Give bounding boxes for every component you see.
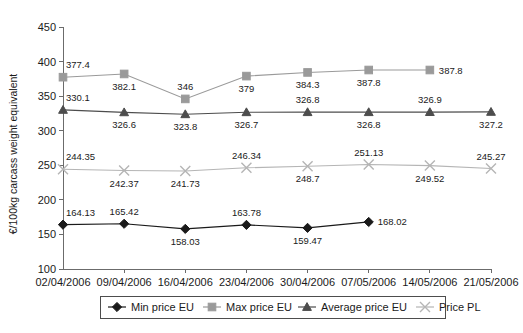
series-min-price-eu: 164.13165.42158.03163.78159.47168.02 xyxy=(58,206,406,247)
series-average-price-eu: 330.1326.6323.8326.7326.8326.8326.9327.2 xyxy=(59,92,503,132)
y-axis-tick-label: 200 xyxy=(38,194,56,206)
data-point-label: 327.2 xyxy=(479,119,503,130)
series-price-pl: 244.35242.37241.73246.34248.7251.13249.5… xyxy=(58,147,506,189)
x-axis-tick-label: 09/04/2006 xyxy=(97,276,152,288)
data-point-diamond-marker xyxy=(120,219,129,228)
x-axis-tick-label: 07/05/2006 xyxy=(341,276,396,288)
data-point-label: 158.03 xyxy=(171,236,200,247)
data-point-diamond-marker xyxy=(364,217,373,226)
legend-label: Max price EU xyxy=(226,301,292,313)
data-point-label: 377.4 xyxy=(66,59,90,70)
price-line-chart: 10015020025030035040045002/04/200609/04/… xyxy=(0,0,523,333)
data-point-label: 241.73 xyxy=(171,178,200,189)
data-point-square-marker xyxy=(304,69,312,77)
data-point-label: 248.7 xyxy=(296,173,320,184)
data-point-square-marker xyxy=(59,73,67,81)
data-point-label: 387.8 xyxy=(439,65,463,76)
data-point-square-marker xyxy=(181,95,189,103)
data-point-label: 165.42 xyxy=(110,206,139,217)
y-axis-tick-label: 450 xyxy=(38,21,56,33)
data-point-label: 168.02 xyxy=(378,216,407,227)
x-axis-tick-label: 14/05/2006 xyxy=(402,276,457,288)
legend-label: Price PL xyxy=(439,301,481,313)
data-point-diamond-marker xyxy=(303,223,312,232)
data-point-label: 382.1 xyxy=(112,81,136,92)
legend-square-marker xyxy=(208,303,216,311)
data-point-square-marker xyxy=(426,66,434,74)
data-point-square-marker xyxy=(243,72,251,80)
data-point-label: 164.13 xyxy=(66,207,95,218)
data-point-label: 326.6 xyxy=(112,119,136,130)
x-axis-tick-label: 16/04/2006 xyxy=(158,276,213,288)
data-point-label: 384.3 xyxy=(296,79,320,90)
data-point-diamond-marker xyxy=(58,220,67,229)
x-axis-tick-label: 21/05/2006 xyxy=(463,276,518,288)
data-point-label: 251.13 xyxy=(354,147,383,158)
data-point-label: 379 xyxy=(238,83,254,94)
chart-axes: 10015020025030035040045002/04/200609/04/… xyxy=(35,21,518,288)
data-point-label: 326.9 xyxy=(418,94,442,105)
chart-legend: Min price EUMax price EUAverage price EU… xyxy=(100,296,481,318)
data-point-diamond-marker xyxy=(242,220,251,229)
data-point-label: 242.37 xyxy=(110,178,139,189)
series-max-price-eu: 377.4382.1346379384.3387.8387.8 xyxy=(59,59,462,103)
data-point-diamond-marker xyxy=(181,224,190,233)
data-point-label: 330.1 xyxy=(66,92,90,103)
y-axis-tick-label: 300 xyxy=(38,125,56,137)
data-point-label: 163.78 xyxy=(232,207,261,218)
x-axis-tick-label: 30/04/2006 xyxy=(280,276,335,288)
data-point-label: 387.8 xyxy=(357,77,381,88)
y-axis-tick-label: 250 xyxy=(38,159,56,171)
chart-canvas: 10015020025030035040045002/04/200609/04/… xyxy=(0,0,523,333)
data-point-triangle-marker xyxy=(59,106,68,114)
data-point-label: 249.52 xyxy=(415,173,444,184)
data-point-label: 246.34 xyxy=(232,150,261,161)
data-point-label: 244.35 xyxy=(66,151,95,162)
axis-lines xyxy=(63,27,491,269)
data-point-label: 159.47 xyxy=(293,235,322,246)
legend-label: Average price EU xyxy=(321,301,407,313)
data-point-label: 326.8 xyxy=(357,119,381,130)
data-point-label: 346 xyxy=(177,81,193,92)
legend-label: Min price EU xyxy=(131,301,194,313)
x-axis-tick-label: 23/04/2006 xyxy=(219,276,274,288)
data-point-square-marker xyxy=(365,66,373,74)
data-point-label: 326.7 xyxy=(235,119,259,130)
y-axis-title: €/100kg carcass weight equivalent xyxy=(7,74,19,235)
y-axis-tick-label: 150 xyxy=(38,228,56,240)
data-point-label: 326.8 xyxy=(296,94,320,105)
y-axis-tick-label: 400 xyxy=(38,56,56,68)
data-point-square-marker xyxy=(120,70,128,78)
series-line xyxy=(63,222,369,229)
y-axis-tick-label: 100 xyxy=(38,263,56,275)
data-point-label: 323.8 xyxy=(173,121,197,132)
x-axis-tick-label: 02/04/2006 xyxy=(35,276,90,288)
y-axis-tick-label: 350 xyxy=(38,90,56,102)
data-point-label: 245.27 xyxy=(476,151,505,162)
